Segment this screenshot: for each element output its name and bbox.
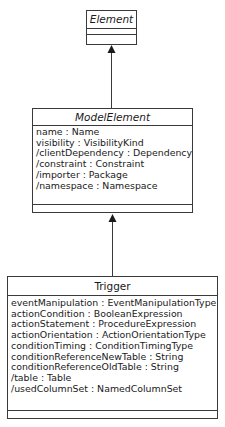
class-modelelement-attributes: name : Name visibility : VisibilityKind … xyxy=(33,126,192,205)
attribute: /namespace : Namespace xyxy=(36,181,189,192)
generalization-trigger-to-modelelement xyxy=(109,214,117,276)
arrowhead-icon xyxy=(109,214,117,222)
generalization-modelelement-to-element xyxy=(108,45,116,108)
class-element[interactable]: Element xyxy=(86,10,137,45)
class-modelelement[interactable]: ModelElement name : Name visibility : Vi… xyxy=(32,108,193,213)
class-trigger-attributes: eventManipulation : EventManipulationTyp… xyxy=(8,296,217,411)
class-element-operations xyxy=(87,35,136,43)
class-trigger-title: Trigger xyxy=(8,277,217,296)
attribute: /importer : Package xyxy=(36,170,189,181)
class-element-title: Element xyxy=(87,11,136,29)
class-trigger[interactable]: Trigger eventManipulation : EventManipul… xyxy=(7,276,218,419)
attribute: /usedColumnSet : NamedColumnSet xyxy=(11,384,214,395)
arrowhead-icon xyxy=(108,45,116,53)
class-modelelement-title: ModelElement xyxy=(33,109,192,126)
attribute: conditionTiming : ConditionTimingType xyxy=(11,341,214,352)
